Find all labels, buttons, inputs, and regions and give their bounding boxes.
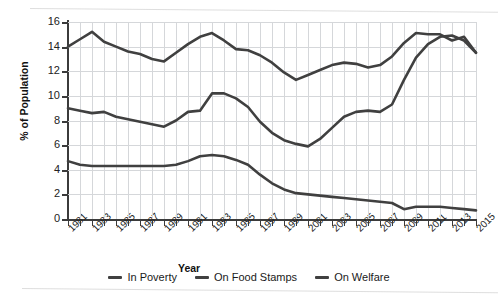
x-axis-tick-mark [296,221,297,226]
y-axis-tick-label: 14 [38,41,60,52]
x-axis-tick-mark [152,221,153,226]
x-axis-tick-mark [440,221,441,226]
y-axis-tick-mark [62,71,67,73]
x-axis-tick-mark [272,221,273,226]
x-axis-tick-mark [344,221,345,226]
y-axis-tick-mark [62,47,67,49]
x-axis-tick-mark [104,221,105,226]
y-axis-tick-label: 6 [38,139,60,150]
legend-swatch-icon [195,276,209,279]
legend-item[interactable]: In Poverty [108,271,177,283]
x-axis-tick-mark [224,221,225,226]
y-axis-tick-mark [62,194,67,196]
legend-label: In Poverty [127,271,177,283]
y-axis-tick-label: 16 [38,16,60,27]
legend-swatch-icon [315,276,329,279]
y-axis-tick-label: 0 [38,213,60,224]
y-axis-tick-mark [62,170,67,172]
y-axis-tick-mark [62,96,67,98]
legend-item[interactable]: On Welfare [315,271,389,283]
x-axis-tick-mark [464,221,465,226]
scan-artifact-bottom [22,288,498,293]
y-axis-tick-label: 12 [38,65,60,76]
x-axis-tick-mark [392,221,393,226]
y-axis-title: % of Population [18,41,30,161]
y-axis-tick-label: 10 [38,90,60,101]
y-axis-tick-label: 4 [38,164,60,175]
chart-legend: In PovertyOn Food StampsOn Welfare [0,271,498,283]
chart-canvas: 0246810121416 19811983198519871989199119… [0,0,498,302]
x-axis-tick-mark [128,221,129,226]
x-axis-tick-label: 2015 [474,211,497,234]
y-axis-tick-mark [62,219,67,221]
y-axis-tick-label: 2 [38,188,60,199]
series-line-in-poverty [68,32,476,80]
y-axis-tick-mark [62,22,67,24]
series-line-on-welfare [68,155,476,210]
y-axis-tick-mark [62,145,67,147]
legend-label: On Food Stamps [214,271,297,283]
series-lines [68,22,476,219]
y-axis-tick-labels: 0246810121416 [30,0,60,302]
x-axis-tick-mark [200,221,201,226]
x-axis-tick-mark [368,221,369,226]
x-axis-tick-mark [176,221,177,226]
x-axis-tick-mark [248,221,249,226]
y-axis-tick-mark [62,121,67,123]
x-axis-tick-mark [416,221,417,226]
legend-label: On Welfare [334,271,389,283]
x-axis-tick-mark [80,221,81,226]
legend-item[interactable]: On Food Stamps [195,271,297,283]
legend-swatch-icon [108,276,122,279]
scan-artifact-top [30,8,498,13]
plot-area [68,22,476,219]
x-axis-tick-mark [320,221,321,226]
y-axis-tick-label: 8 [38,115,60,126]
